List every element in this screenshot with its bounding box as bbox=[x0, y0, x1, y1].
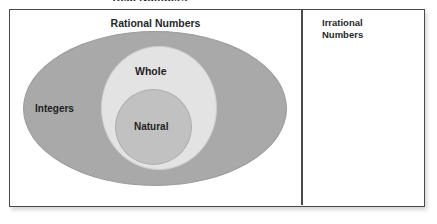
irrational-numbers-label: Irrational Numbers bbox=[310, 17, 428, 41]
diagram-title: Real Numbers bbox=[0, 0, 300, 1]
whole-label: Whole bbox=[135, 65, 167, 77]
real-numbers-container: Rational Numbers Irrational Numbers Inte… bbox=[9, 9, 425, 207]
integers-label: Integers bbox=[35, 103, 74, 114]
real-numbers-venn-diagram: Real Numbers Rational Numbers Irrational… bbox=[0, 0, 437, 224]
natural-label: Natural bbox=[134, 121, 168, 132]
rational-numbers-label: Rational Numbers bbox=[10, 17, 301, 29]
irrational-label-line-2: Numbers bbox=[322, 29, 428, 41]
irrational-label-line-1: Irrational bbox=[322, 17, 428, 29]
panel-divider bbox=[301, 10, 303, 205]
